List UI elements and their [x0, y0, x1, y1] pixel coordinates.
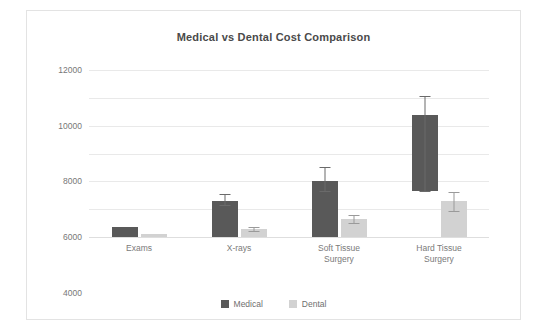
y-axis-tick-label: 10000: [58, 121, 82, 131]
x-axis-category-x-rays: X-rays: [189, 243, 289, 254]
bar-medical[interactable]: [112, 227, 138, 237]
error-bar-cap: [219, 205, 230, 206]
chart-title: Medical vs Dental Cost Comparison: [27, 31, 520, 43]
x-axis-tick-label: X-rays: [189, 243, 289, 254]
error-bar-cap: [248, 227, 259, 228]
bar-dental[interactable]: [141, 234, 167, 237]
error-bar-cap: [448, 211, 459, 212]
error-bar-cap: [448, 192, 459, 193]
error-bar-cap: [419, 191, 430, 192]
legend-swatch-icon: [289, 300, 297, 308]
y-axis-tick-label: 8000: [63, 176, 82, 186]
bar-medical[interactable]: [212, 201, 238, 237]
error-bar: [324, 167, 325, 191]
error-bar-cap: [348, 223, 359, 224]
error-bar-cap: [319, 167, 330, 168]
x-axis-labels: ExamsX-raysSoft TissueSurgeryHard Tissue…: [89, 243, 489, 277]
y-axis-tick-label: 12000: [58, 65, 82, 75]
y-axis-tick-label: 6000: [63, 232, 82, 242]
x-axis-category-exams: Exams: [89, 243, 189, 254]
bar-group: [89, 70, 189, 237]
error-bar-cap: [248, 231, 259, 232]
error-bar: [353, 215, 354, 223]
legend-label: Medical: [234, 299, 263, 309]
error-bar-cap: [319, 191, 330, 192]
error-bar-cap: [419, 96, 430, 97]
legend-item-dental[interactable]: Dental: [289, 299, 327, 309]
x-axis-tick-label: Surgery: [389, 254, 489, 265]
error-bar: [453, 192, 454, 210]
legend-swatch-icon: [221, 300, 229, 308]
x-axis-category-soft-tissue-surgery: Soft TissueSurgery: [289, 243, 389, 265]
error-bar-cap: [219, 194, 230, 195]
chart-card: Medical vs Dental Cost Comparison 020004…: [26, 10, 521, 320]
x-axis-category-hard-tissue-surgery: Hard TissueSurgery: [389, 243, 489, 265]
error-bar: [224, 194, 225, 205]
legend-label: Dental: [302, 299, 327, 309]
legend-item-medical[interactable]: Medical: [221, 299, 263, 309]
y-axis-tick-label: 4000: [63, 288, 82, 298]
x-axis-tick-label: Soft Tissue: [289, 243, 389, 254]
x-axis-tick-label: Exams: [89, 243, 189, 254]
chart-legend: MedicalDental: [27, 299, 520, 309]
error-bar-cap: [348, 215, 359, 216]
bar-group: [389, 70, 489, 237]
x-axis-tick-label: Surgery: [289, 254, 389, 265]
axis-baseline: 0: [89, 237, 489, 238]
plot-area: 020004000600080001000012000: [89, 70, 489, 237]
error-bar: [424, 96, 425, 191]
x-axis-tick-label: Hard Tissue: [389, 243, 489, 254]
bar-group: [289, 70, 389, 237]
bar-group: [189, 70, 289, 237]
